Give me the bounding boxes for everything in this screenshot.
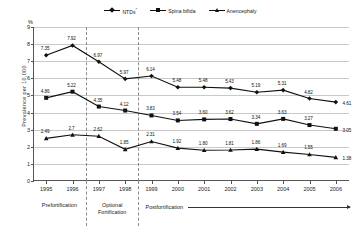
x-tick-mark: [336, 181, 337, 184]
legend-item-anencephaly: Anencephaly: [209, 7, 257, 14]
data-point-label: 5.48: [172, 78, 181, 83]
y-tick-label: 3: [27, 127, 30, 133]
data-point-label: 3.34: [251, 114, 260, 119]
data-point-label: 3.54: [172, 111, 181, 116]
x-tick-label: 2001: [198, 186, 210, 192]
plot-area: 0123456789 19951996199719981999200020012…: [33, 27, 349, 181]
data-point-marker: [202, 85, 207, 90]
data-point-label: 4.61: [342, 101, 351, 106]
data-point-label: 5.31: [278, 81, 287, 86]
data-point-marker: [334, 100, 339, 105]
data-point-label: 1.81: [225, 141, 234, 146]
x-tick-mark: [257, 181, 258, 184]
band-label-prefortification: Prefortification: [42, 202, 77, 209]
data-point-marker: [255, 90, 260, 95]
data-point-label: 2.62: [93, 127, 102, 132]
legend-marker-diamond-icon: [104, 7, 120, 14]
y-tick-label: 5: [27, 92, 30, 98]
data-point-label: 6.97: [93, 52, 102, 57]
data-point-marker: [97, 105, 101, 109]
data-point-label: 4.86: [41, 88, 50, 93]
x-tick-label: 1998: [119, 186, 131, 192]
x-tick-label: 1997: [93, 186, 105, 192]
data-point-marker: [307, 96, 312, 101]
x-tick-mark: [283, 181, 284, 184]
period-band-annotations: PrefortificationOptionalFortificationPos…: [0, 196, 361, 226]
legend-item-spina-bifida: Spina bifida: [150, 7, 195, 14]
data-point-label: 3.05: [342, 127, 351, 132]
data-point-label: 1.85: [120, 140, 129, 145]
data-point-marker: [281, 117, 285, 121]
data-point-label: 3.27: [304, 116, 313, 121]
x-tick-mark: [204, 181, 205, 184]
data-point-marker: [176, 118, 180, 122]
data-point-label: 3.83: [146, 106, 155, 111]
data-point-marker: [229, 117, 233, 121]
data-point-marker: [149, 74, 154, 79]
x-tick-mark: [125, 181, 126, 184]
data-point-label: 1.38: [342, 156, 351, 161]
data-point-marker: [334, 127, 338, 131]
series-line-ntds: [46, 45, 336, 102]
data-point-label: 1.80: [199, 141, 208, 146]
x-tick-mark: [152, 181, 153, 184]
data-point-label: 1.86: [251, 140, 260, 145]
x-tick-mark: [73, 181, 74, 184]
x-tick-label: 2004: [277, 186, 289, 192]
x-tick-label: 2003: [251, 186, 263, 192]
data-point-label: 1.55: [304, 145, 313, 150]
data-point-marker: [202, 117, 206, 121]
postfortification-arrow-icon: [188, 207, 350, 208]
x-tick-label: 2005: [303, 186, 315, 192]
y-tick-label: 2: [27, 144, 30, 150]
chart-legend: NTDs* Spina bifida Anencephaly: [0, 7, 361, 15]
data-point-label: 3.63: [278, 109, 287, 114]
series-line-spina-bifida: [46, 92, 336, 129]
data-point-label: 4.12: [120, 101, 129, 106]
x-tick-label: 2002: [224, 186, 236, 192]
data-point-label: 5.48: [199, 78, 208, 83]
data-point-label: 3.62: [225, 110, 234, 115]
data-point-marker: [308, 123, 312, 127]
data-point-label: 5.22: [67, 82, 76, 87]
x-tick-label: 1995: [40, 186, 52, 192]
x-tick-label: 2000: [172, 186, 184, 192]
data-point-label: 6.14: [146, 66, 155, 71]
data-series-layer: [33, 27, 349, 181]
chart-container: NTDs* Spina bifida Anencephaly % Prevale…: [0, 0, 361, 233]
data-point-label: 1.92: [172, 139, 181, 144]
data-point-label: 2.31: [146, 132, 155, 137]
x-tick-label: 2006: [330, 186, 342, 192]
y-tick-label: 1: [27, 161, 30, 167]
data-point-marker: [228, 86, 233, 91]
data-point-marker: [44, 96, 48, 100]
band-label-optional: OptionalFortification: [98, 202, 126, 216]
x-tick-label: 1999: [145, 186, 157, 192]
data-point-label: 7.92: [67, 36, 76, 41]
data-point-label: 4.82: [304, 89, 313, 94]
data-point-label: 5.97: [120, 69, 129, 74]
data-point-label: 7.35: [41, 46, 50, 51]
data-point-marker: [255, 122, 259, 126]
data-point-label: 5.19: [251, 83, 260, 88]
legend-superscript-asterisk: *: [136, 7, 138, 12]
data-point-marker: [150, 113, 154, 117]
y-tick-label: 0: [27, 178, 30, 184]
legend-label-spina-bifida: Spina bifida: [168, 8, 195, 14]
legend-marker-triangle-icon: [209, 7, 225, 14]
data-point-label: 1.69: [278, 143, 287, 148]
x-tick-mark: [99, 181, 100, 184]
y-tick-label: 7: [27, 58, 30, 64]
band-label-postfortification: Postfortification: [146, 204, 184, 211]
x-tick-mark: [178, 181, 179, 184]
data-point-label: 3.60: [199, 110, 208, 115]
data-point-label: 2.49: [41, 129, 50, 134]
y-tick-label: 4: [27, 110, 30, 116]
y-tick-mark: [31, 181, 34, 182]
x-tick-mark: [46, 181, 47, 184]
x-tick-mark: [231, 181, 232, 184]
data-point-marker: [176, 85, 181, 90]
legend-marker-square-icon: [150, 7, 166, 14]
data-point-label: 2.7: [68, 125, 74, 130]
data-point-marker: [149, 139, 154, 143]
